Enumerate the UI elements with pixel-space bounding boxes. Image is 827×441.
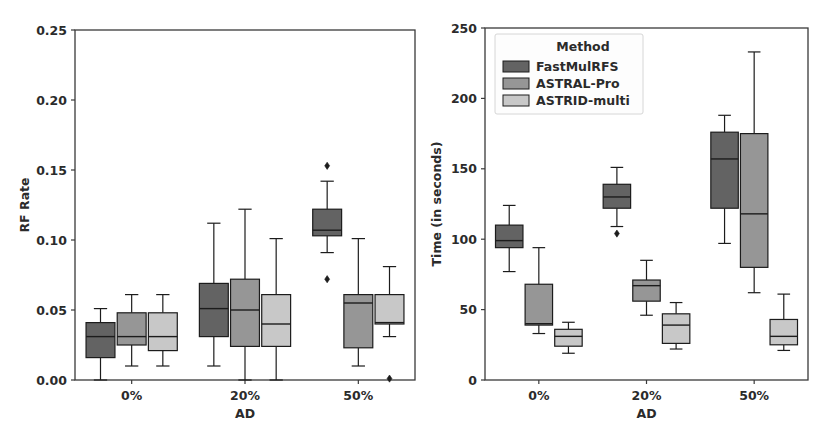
legend-label-astral-pro: ASTRAL-Pro <box>536 76 620 91</box>
axes-right: 050100150200250Time (in seconds)0%20%50%… <box>420 0 827 441</box>
legend: MethodFastMulRFSASTRAL-ProASTRID-multi <box>495 34 643 114</box>
box-fastmulrfs-50% <box>313 162 342 283</box>
series-fastmulrfs <box>495 115 738 271</box>
y-tick-label: 0.20 <box>36 93 67 108</box>
y-tick-label: 100 <box>451 232 477 247</box>
legend-swatch-fastmulrfs <box>503 61 529 72</box>
box-body <box>313 209 342 236</box>
box-astral-pro-50% <box>740 52 767 293</box>
x-tick-label: 20% <box>632 388 662 403</box>
outlier-marker <box>325 162 330 169</box>
box-body <box>86 323 115 358</box>
box-astral-pro-0% <box>117 295 146 366</box>
box-body <box>633 280 660 301</box>
box-body <box>117 313 146 345</box>
box-fastmulrfs-0% <box>86 309 115 380</box>
y-tick-label: 0 <box>468 373 477 388</box>
axes-left: 0.000.050.100.150.200.25RF Rate0%20%50%A… <box>0 0 420 441</box>
box-astrid-multi-50% <box>770 294 797 350</box>
box-astral-pro-0% <box>525 248 552 334</box>
box-body <box>375 295 404 324</box>
legend-label-fastmulrfs: FastMulRFS <box>536 59 618 74</box>
y-axis-title: RF Rate <box>17 177 32 232</box>
box-body <box>495 225 522 248</box>
panel-rf-rate: 0.000.050.100.150.200.25RF Rate0%20%50%A… <box>0 0 420 441</box>
y-tick-label: 250 <box>451 21 477 36</box>
x-tick-label: 20% <box>230 388 260 403</box>
y-tick-label: 0.05 <box>36 303 67 318</box>
box-body <box>711 132 738 208</box>
box-fastmulrfs-20% <box>603 167 630 237</box>
y-tick-label: 50 <box>460 302 478 317</box>
box-astral-pro-20% <box>231 209 260 380</box>
box-astrid-multi-0% <box>148 295 177 366</box>
box-body <box>555 329 582 346</box>
boxes-group-left <box>86 162 404 382</box>
x-axis: 0%20%50% <box>121 380 374 403</box>
x-tick-label: 50% <box>739 388 769 403</box>
box-body <box>525 284 552 325</box>
box-fastmulrfs-50% <box>711 115 738 243</box>
y-axis: 0.000.050.100.150.200.25 <box>36 23 75 388</box>
y-tick-label: 0.10 <box>36 233 67 248</box>
y-tick-label: 200 <box>451 91 477 106</box>
outlier-marker <box>325 276 330 283</box>
y-axis: 050100150200250 <box>451 21 485 388</box>
box-astral-pro-50% <box>344 239 373 366</box>
legend-label-astrid-multi: ASTRID-multi <box>536 93 630 108</box>
y-tick-label: 0.00 <box>36 373 67 388</box>
box-body <box>770 319 797 344</box>
x-axis: 0%20%50% <box>528 380 769 403</box>
box-body <box>199 283 228 336</box>
box-fastmulrfs-20% <box>199 223 228 366</box>
box-body <box>231 279 260 346</box>
box-body <box>740 134 767 268</box>
box-body <box>603 184 630 208</box>
y-axis-title: Time (in seconds) <box>429 142 444 267</box>
box-astrid-multi-50% <box>375 267 404 383</box>
x-axis-title: AD <box>636 406 656 421</box>
series-fastmulrfs <box>86 162 342 380</box>
box-body <box>148 313 177 351</box>
box-body <box>262 295 291 347</box>
x-tick-label: 50% <box>343 388 373 403</box>
y-tick-label: 150 <box>451 161 477 176</box>
x-tick-label: 0% <box>528 388 550 403</box>
y-tick-label: 0.25 <box>36 23 67 38</box>
box-body <box>662 314 689 344</box>
outlier-marker <box>387 375 392 382</box>
series-astrid-multi <box>555 294 798 353</box>
x-axis-title: AD <box>235 406 255 421</box>
legend-swatch-astrid-multi <box>503 95 529 106</box>
x-tick-label: 0% <box>121 388 143 403</box>
box-astrid-multi-20% <box>662 303 689 349</box>
y-tick-label: 0.15 <box>36 163 67 178</box>
box-astral-pro-20% <box>633 260 660 315</box>
box-fastmulrfs-0% <box>495 205 522 271</box>
box-astrid-multi-0% <box>555 322 582 353</box>
legend-title: Method <box>556 39 609 54</box>
outlier-marker <box>614 230 619 237</box>
boxplot-figure: 0.000.050.100.150.200.25RF Rate0%20%50%A… <box>0 0 827 441</box>
box-astrid-multi-20% <box>262 239 291 380</box>
legend-swatch-astral-pro <box>503 78 529 89</box>
panel-runtime: 050100150200250Time (in seconds)0%20%50%… <box>420 0 827 441</box>
